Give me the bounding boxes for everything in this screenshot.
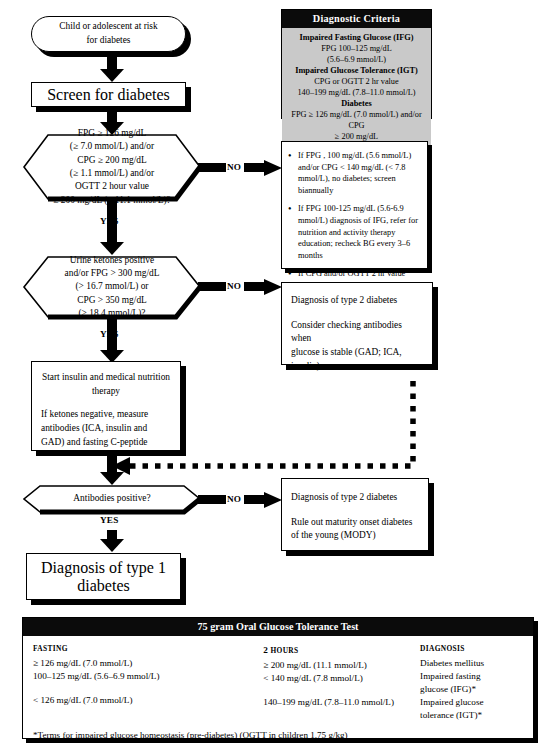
ogtt-column-diagnosis: DIAGNOSIS Diabetes mellitus Impaired fas… — [420, 644, 523, 722]
criteria-line-1: FPG 100–125 mg/dL — [287, 43, 426, 54]
ogtt-table: 75 gram Oral Glucose Tolerance Test FAST… — [22, 617, 534, 739]
type2-line2: Consider checking antibodies when — [291, 319, 423, 346]
type2-line4: insulin) — [291, 360, 423, 374]
decision-glucose-criteria: FPG ≥ 126 mg/dL (≥ 7.0 mmol/L) and/or CP… — [22, 133, 202, 201]
diagnostic-criteria-panel: Diagnostic Criteria Impaired Fasting Glu… — [281, 9, 432, 119]
ogtt-header-2hours-num: 2 — [263, 645, 268, 655]
criteria-body: Impaired Fasting Glucose (IFG) FPG 100–1… — [282, 28, 431, 158]
decision-ketones: Urine ketones positive and/or FPG > 300 … — [22, 255, 202, 319]
mody-line1: Diagnosis of type 2 diabetes — [291, 491, 419, 505]
ogtt-diagnosis-row4: Impaired glucose — [420, 696, 523, 709]
screen-for-diabetes-box: Screen for diabetes — [31, 82, 186, 107]
criteria-line-7: FPG ≥ 126 mg/dL (7.0 mmol/L) and/or CPG — [287, 109, 426, 131]
dashed-feedback-path — [108, 381, 420, 471]
ogtt-header-fasting: FASTING — [33, 644, 263, 655]
decision2-no-label: NO — [227, 281, 241, 291]
mody-diagnosis-box: Diagnosis of type 2 diabetes Rule out ma… — [281, 478, 429, 551]
criteria-line-4: CPG or OGTT 2 hr value — [287, 76, 426, 87]
decision2-yes-label: YES — [100, 329, 118, 339]
ogtt-fasting-row2: 100–125 mg/dL (5.6–6.9 mmol/L) — [33, 670, 263, 683]
start-label: Child or adolescent at risk for diabetes — [59, 20, 157, 47]
type1-diagnosis-box: Diagnosis of type 1 diabetes — [26, 553, 181, 600]
ogtt-fasting-row1: ≥ 126 mg/dL (7.0 mmol/L) — [33, 657, 263, 670]
criteria-line-2: (5.6–6.9 mmol/L) — [287, 54, 426, 65]
criteria-line-5: 140–199 mg/dL (7.8–11.0 mmol/L) — [287, 87, 426, 98]
arrow-decision2-yes — [100, 319, 124, 363]
arrow-decision1-yes — [100, 201, 124, 255]
ogtt-title: 75 gram Oral Glucose Tolerance Test — [23, 618, 533, 636]
ogtt-2hours-row2: < 140 mg/dL (7.8 mmol/L) — [263, 672, 420, 685]
ogtt-column-2hours: 2 HOURS ≥ 200 mg/dL (11.1 mmol/L) < 140 … — [263, 644, 420, 722]
criteria-line-3: Impaired Glucose Tolerance (IGT) — [287, 65, 426, 76]
type2-line3: glucose is stable (GAD; ICA, — [291, 346, 423, 360]
bullet-item: If FPG 100-125 mg/dL (5.6-6.9 mmol/L) di… — [288, 203, 418, 261]
criteria-line-0: Impaired Fasting Glucose (IFG) — [287, 32, 426, 43]
ogtt-diagnosis-row1: Diabetes mellitus — [420, 657, 523, 670]
guidance-bullets-box: If FPG , 100 mg/dL (5.6 mmol/L) and/or C… — [281, 141, 428, 269]
ogtt-2hours-row1: ≥ 200 mg/dL (11.1 mmol/L) — [263, 659, 420, 672]
decision-antibodies: Antibodies positive? — [22, 484, 202, 514]
decision1-yes-label: YES — [100, 216, 118, 226]
start-terminator: Child or adolescent at risk for diabetes — [31, 16, 186, 52]
ogtt-column-fasting: FASTING ≥ 126 mg/dL (7.0 mmol/L) 100–125… — [33, 644, 263, 722]
type1-label: Diagnosis of type 1 diabetes — [27, 559, 180, 595]
criteria-title: Diagnostic Criteria — [282, 10, 431, 28]
bullet-item: If FPG , 100 mg/dL (5.6 mmol/L) and/or C… — [288, 150, 418, 196]
ogtt-header-2hours-word: HOURS — [270, 646, 298, 655]
ogtt-header-2hours: 2 HOURS — [263, 644, 420, 657]
arrow-screen-to-decision1 — [100, 107, 124, 135]
screen-label: Screen for diabetes — [47, 86, 170, 104]
decision1-no-label: NO — [227, 162, 241, 172]
ogtt-fasting-row4: < 126 mg/dL (7.0 mmol/L) — [33, 694, 263, 707]
ogtt-diagnosis-row5: tolerance (IGT)* — [420, 709, 523, 722]
type2-diagnosis-box: Diagnosis of type 2 diabetes Consider ch… — [281, 282, 433, 365]
criteria-line-6: Diabetes — [287, 98, 426, 109]
mody-line3: of the young (MODY) — [291, 529, 419, 543]
decision3-no-label: NO — [227, 494, 241, 504]
ogtt-header-diagnosis: DIAGNOSIS — [420, 644, 523, 655]
type2-line1: Diagnosis of type 2 diabetes — [291, 294, 423, 308]
ogtt-diagnosis-row2: Impaired fasting — [420, 670, 523, 683]
arrow-start-to-screen — [100, 52, 124, 82]
ogtt-diagnosis-row3: glucose (IFG)* — [420, 683, 523, 696]
ogtt-footnote: *Terms for impaired glucose homeostasis … — [23, 726, 533, 748]
decision3-yes-label: YES — [100, 515, 118, 525]
mody-line2: Rule out maturity onset diabetes — [291, 516, 419, 530]
ogtt-2hours-row4: 140–199 mg/dL (7.8–11.0 mmol/L) — [263, 696, 420, 709]
